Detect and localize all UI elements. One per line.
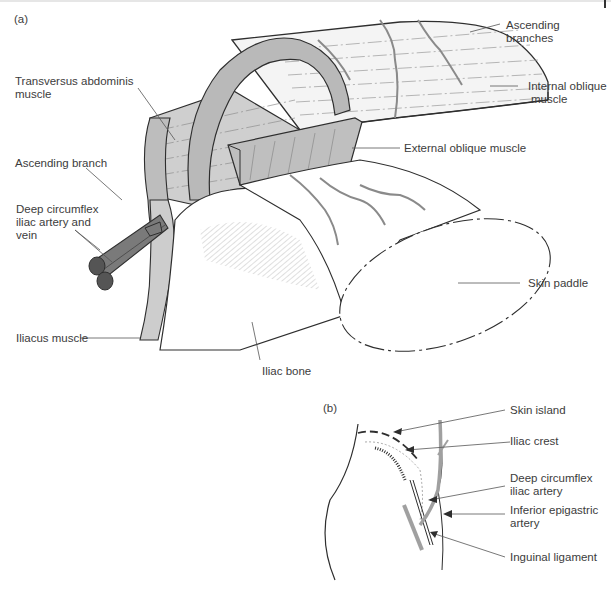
label-internal-oblique-muscle: Internal oblique muscle [528,80,607,106]
label-ascending-branch: Ascending branch [15,157,107,170]
label-skin-island: Skin island [510,404,566,417]
label-ascending-branches: Ascending branches [506,19,560,45]
label-inferior-epigastric-artery: Inferior epigastric artery [510,504,598,530]
label-skin-paddle: Skin paddle [528,277,588,290]
label-deep-circumflex-iliac-artery: Deep circumflex iliac artery [510,472,592,498]
leader-lines-b [395,410,510,557]
label-external-oblique-muscle: External oblique muscle [404,142,526,155]
label-iliacus-muscle: Iliacus muscle [16,332,88,345]
panel-a-label: (a) [14,13,28,25]
internal-oblique-muscle [232,20,548,130]
label-iliac-bone: Iliac bone [262,365,311,378]
label-transversus-abdominis: Transversus abdominis muscle [15,75,133,101]
panel-b-label: (b) [323,402,337,414]
label-inguinal-ligament: Inguinal ligament [510,551,597,564]
label-deep-circumflex-iliac-artery-vein: Deep circumflex iliac artery and vein [16,203,98,242]
label-iliac-crest: Iliac crest [510,435,559,448]
